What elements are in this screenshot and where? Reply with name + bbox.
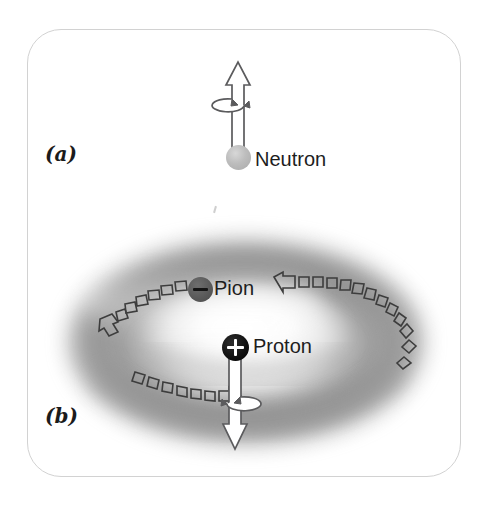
- panel-a-label: (a): [45, 142, 77, 166]
- figure-root: Neutron Pion Proton (a) (b): [0, 0, 494, 505]
- panel-b-label: (b): [45, 404, 78, 428]
- proton-positive-charge-icon: [222, 334, 249, 361]
- pion-label: Pion: [214, 277, 254, 300]
- pion-particle: [188, 277, 213, 302]
- figure-frame: [27, 29, 461, 477]
- proton-label: Proton: [253, 335, 312, 358]
- pion-negative-charge-icon: [188, 277, 213, 302]
- neutron-particle: [226, 145, 251, 170]
- neutron-label: Neutron: [255, 148, 326, 171]
- proton-particle: [222, 334, 249, 361]
